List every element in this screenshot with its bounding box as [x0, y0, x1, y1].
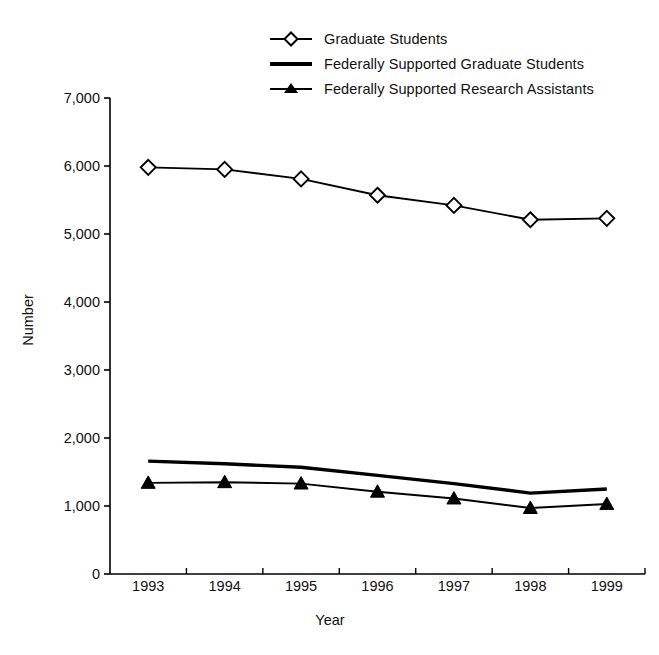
y-axis-tick-label: 0: [40, 566, 100, 582]
data-point-marker: [600, 497, 614, 509]
x-axis-tick-label: 1993: [113, 578, 183, 594]
y-axis-title: Number: [20, 270, 36, 370]
data-point-marker: [370, 188, 385, 203]
y-axis-tick-label: 2,000: [40, 430, 100, 446]
data-point-marker: [599, 211, 614, 226]
data-point-marker: [294, 171, 309, 186]
y-axis-tick-label: 3,000: [40, 362, 100, 378]
data-point-marker: [446, 198, 461, 213]
x-axis-tick-label: 1999: [572, 578, 642, 594]
x-axis-tick-label: 1996: [343, 578, 413, 594]
data-point-marker: [217, 162, 232, 177]
data-point-marker: [141, 160, 156, 175]
y-axis-tick-label: 5,000: [40, 226, 100, 242]
x-axis-tick-label: 1997: [419, 578, 489, 594]
x-axis-tick-label: 1995: [266, 578, 336, 594]
x-axis-title: Year: [315, 612, 344, 628]
y-axis-tick-label: 4,000: [40, 294, 100, 310]
x-axis-tick-label: 1994: [190, 578, 260, 594]
line-chart: 01,0002,0003,0004,0005,0006,0007,000 199…: [0, 0, 659, 655]
x-axis-tick-label: 1998: [495, 578, 565, 594]
chart-page: Graduate Students Federally Supported Gr…: [0, 0, 659, 655]
data-point-marker: [523, 212, 538, 227]
y-axis-tick-label: 7,000: [40, 90, 100, 106]
y-axis-tick-label: 1,000: [40, 498, 100, 514]
y-axis-tick-label: 6,000: [40, 158, 100, 174]
